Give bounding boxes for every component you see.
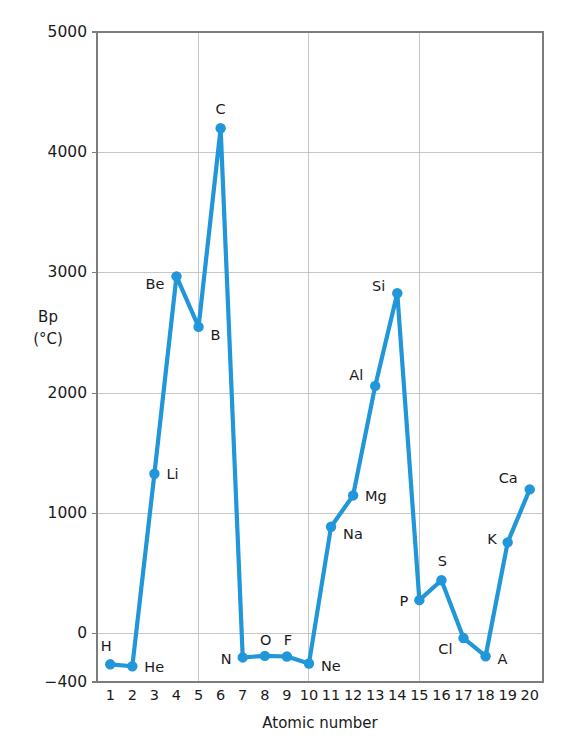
series-polyline: [110, 128, 530, 666]
point-label-p: P: [400, 593, 409, 609]
data-point-he: [127, 661, 137, 671]
x-tick-label: 2: [128, 687, 137, 703]
data-point-ne: [304, 658, 314, 668]
data-point-be: [171, 271, 181, 281]
point-label-ca: Ca: [499, 470, 518, 486]
x-tick-label: 18: [476, 687, 494, 703]
y-tick-label: 2000: [48, 384, 87, 402]
data-point-si: [392, 288, 402, 298]
point-label-li: Li: [166, 466, 178, 482]
x-tick-label: 6: [216, 687, 225, 703]
x-axis-title: Atomic number: [262, 714, 378, 732]
y-axis-title-line: (°C): [33, 330, 63, 348]
data-point-al: [370, 381, 380, 391]
point-label-b: B: [211, 327, 221, 343]
data-point-k: [502, 537, 512, 547]
point-label-be: Be: [146, 276, 165, 292]
data-point-na: [326, 522, 336, 532]
data-series-line: [110, 128, 530, 666]
x-tick-label: 1: [106, 687, 115, 703]
boiling-point-line-chart: −400010002000300040005000 12345678910111…: [0, 0, 573, 743]
x-tick-label: 20: [521, 687, 539, 703]
point-label-na: Na: [343, 526, 363, 542]
x-tick-label: 13: [366, 687, 384, 703]
data-point-c: [215, 123, 225, 133]
data-point-o: [260, 651, 270, 661]
x-tick-label: 9: [282, 687, 291, 703]
y-axis-title-line: Bp: [38, 308, 58, 326]
point-label-al: Al: [349, 367, 363, 383]
x-tick-label: 16: [432, 687, 450, 703]
data-point-b: [193, 322, 203, 332]
x-tick-label: 8: [260, 687, 269, 703]
point-label-h: H: [101, 638, 112, 654]
x-tick-label: 14: [388, 687, 406, 703]
x-tick-label: 5: [194, 687, 203, 703]
x-axis-tick-labels: 1234567891011121314151617181920: [106, 687, 539, 703]
point-label-n: N: [221, 651, 232, 667]
x-tick-label: 10: [300, 687, 318, 703]
y-tick-label: −400: [44, 673, 87, 691]
data-point-f: [282, 651, 292, 661]
y-tick-label: 1000: [48, 504, 87, 522]
data-point-p: [414, 595, 424, 605]
y-axis-tick-labels: −400010002000300040005000: [44, 23, 87, 691]
data-point-h: [105, 659, 115, 669]
point-label-si: Si: [372, 278, 385, 294]
x-tick-label: 11: [322, 687, 340, 703]
x-tick-label: 7: [238, 687, 247, 703]
point-label-mg: Mg: [365, 488, 387, 504]
x-tick-label: 3: [150, 687, 159, 703]
point-label-he: He: [144, 659, 164, 675]
point-label-f: F: [284, 632, 292, 648]
point-label-s: S: [438, 553, 447, 569]
data-point-s: [436, 575, 446, 585]
y-axis-title: Bp(°C): [33, 308, 63, 348]
x-tick-label: 12: [344, 687, 362, 703]
data-point-n: [238, 652, 248, 662]
y-tick-label: 5000: [48, 23, 87, 41]
point-label-cl: Cl: [438, 641, 452, 657]
data-point-cl: [458, 633, 468, 643]
point-label-k: K: [487, 531, 497, 547]
point-label-o: O: [260, 632, 271, 648]
x-tick-label: 17: [454, 687, 472, 703]
x-axis-title: Atomic number: [262, 714, 378, 732]
x-tick-label: 15: [410, 687, 428, 703]
x-tick-label: 4: [172, 687, 181, 703]
y-tick-label: 3000: [48, 263, 87, 281]
y-tick-label: 4000: [48, 143, 87, 161]
data-point-ca: [525, 484, 535, 494]
point-label-ne: Ne: [321, 658, 341, 674]
data-point-mg: [348, 490, 358, 500]
chart-container: −400010002000300040005000 12345678910111…: [0, 0, 573, 743]
data-point-li: [149, 469, 159, 479]
x-tick-label: 19: [498, 687, 516, 703]
axis-ticks: [92, 32, 97, 682]
point-label-c: C: [216, 101, 226, 117]
data-point-a: [480, 651, 490, 661]
y-tick-label: 0: [77, 624, 87, 642]
point-label-a: A: [498, 651, 508, 667]
